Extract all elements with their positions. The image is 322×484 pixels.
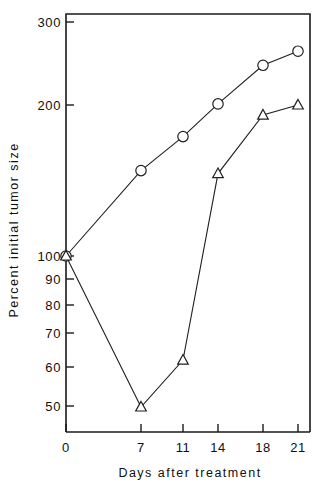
series-open-circle-line [66,51,298,256]
data-point-triangle [178,355,189,365]
y-axis-tick-labels: 300 200 100 90 80 70 60 50 [38,15,62,414]
x-axis-title: Days after treatment [118,466,261,480]
x-tick-label-7: 7 [137,440,145,455]
data-point-circle [178,131,188,141]
x-tick-label-18: 18 [255,440,271,455]
y-axis-ticks [66,22,74,406]
line-chart: 300 200 100 90 80 70 60 50 0 7 11 14 18 … [0,0,322,484]
y-tick-label-200: 200 [38,98,62,113]
y-tick-label-100: 100 [38,249,62,264]
data-point-circle [258,60,268,70]
y-tick-label-50: 50 [45,399,61,414]
series-open-triangle-markers [61,99,304,411]
series-open-circle [61,46,303,261]
plot-frame [66,14,310,432]
x-tick-label-21: 21 [290,440,306,455]
x-axis-tick-labels: 0 7 11 14 18 21 [62,440,306,455]
y-axis-title: Percent initial tumor size [7,142,21,317]
x-tick-label-0: 0 [62,440,70,455]
data-point-circle [293,46,303,56]
y-tick-label-80: 80 [45,298,61,313]
series-open-circle-markers [61,46,303,261]
y-tick-label-90: 90 [45,272,61,287]
figure-panel: 300 200 100 90 80 70 60 50 0 7 11 14 18 … [0,0,322,484]
series-open-triangle [61,99,304,411]
x-axis-ticks [66,424,298,432]
data-point-circle [136,165,146,175]
y-tick-label-60: 60 [45,360,61,375]
x-tick-label-14: 14 [210,440,226,455]
y-tick-label-70: 70 [45,326,61,341]
y-tick-label-300: 300 [38,15,62,30]
data-point-triangle [293,99,304,109]
x-tick-label-11: 11 [176,440,191,455]
data-point-circle [213,99,223,109]
